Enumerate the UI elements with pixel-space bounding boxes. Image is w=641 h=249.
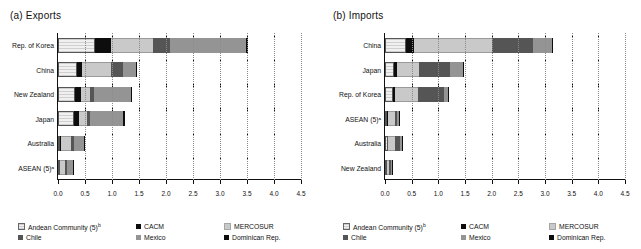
x-axis-tick-label: 4.0	[269, 190, 278, 197]
bar-segment-dominican	[448, 87, 449, 102]
gridline	[112, 33, 113, 180]
legend-item: MERCOSUR	[549, 221, 635, 232]
legend-swatch-cacm	[461, 224, 466, 229]
bar-segment-mexico	[170, 38, 245, 53]
legend-item: CACM	[461, 221, 549, 232]
category-label: New Zealand	[14, 91, 54, 98]
legend-swatch-chile	[343, 235, 348, 240]
x-axis-tick	[112, 180, 113, 184]
gridline	[465, 33, 466, 180]
x-axis-tick	[85, 180, 86, 184]
bar-segment-dominican	[463, 62, 464, 77]
bar-segment-mexico	[74, 136, 84, 151]
legend-item: Chile	[18, 232, 136, 243]
gridline	[85, 33, 86, 180]
bar-segment-chile	[492, 38, 533, 53]
gridline	[492, 33, 493, 180]
stacked-bar	[385, 111, 443, 126]
bar-row: China	[58, 62, 301, 77]
stacked-bar	[385, 136, 450, 151]
bar-segment-andean	[58, 87, 75, 102]
legend-swatch-mexico	[136, 235, 141, 240]
bar-row: ASEAN (5)ᵃ	[385, 111, 625, 126]
bar-rows-imports: ChinaJapanRep. of KoreaASEAN (5)ᵃAustral…	[385, 33, 625, 180]
bar-segment-cacm	[95, 38, 110, 53]
bar-row: Australia	[58, 136, 301, 151]
x-axis-tick	[274, 180, 275, 184]
bar-segment-mercosur	[395, 87, 418, 102]
stacked-bar	[58, 87, 192, 102]
legend-item: CACM	[136, 221, 224, 232]
x-axis-tick-label: 0.0	[380, 190, 389, 197]
category-label: Japan	[362, 66, 381, 73]
category-label: Australia	[355, 140, 381, 147]
bar-rows-exports: Rep. of KoreaChinaNew ZealandJapanAustra…	[58, 33, 301, 180]
category-label: ASEAN (5)ᵃ	[345, 115, 381, 122]
legend-label: Dominican Rep.	[557, 234, 605, 241]
x-axis-tick-label: 4.5	[296, 190, 305, 197]
legend-label-superscript: b	[423, 222, 426, 228]
bar-segment-dominican	[123, 111, 124, 126]
category-label: China	[363, 42, 381, 49]
bar-segment-chile	[419, 62, 450, 77]
x-axis-tick	[301, 180, 302, 184]
stacked-bar	[385, 87, 509, 102]
legend-label: MERCOSUR	[234, 223, 274, 230]
bar-row: New Zealand	[58, 87, 301, 102]
bar-segment-dominican	[136, 62, 138, 77]
legend-item: Andean Community (5)b	[18, 221, 136, 232]
x-axis-tick-label: 1.5	[460, 190, 469, 197]
bar-row: Rep. of Korea	[58, 38, 301, 53]
x-axis-tick-label: 3.0	[215, 190, 224, 197]
legend-label: Dominican Rep.	[232, 234, 280, 241]
x-axis-tick	[139, 180, 140, 184]
legend-label: Mexico	[469, 234, 491, 241]
legend-swatch-andean	[18, 223, 25, 230]
bar-segment-mercosur	[61, 136, 72, 151]
x-axis-tick	[438, 180, 439, 184]
x-axis-tick-label: 1.0	[107, 190, 116, 197]
x-axis-tick	[166, 180, 167, 184]
x-axis-tick-label: 0.5	[407, 190, 416, 197]
bar-row: New Zealand	[385, 160, 625, 175]
chart-panel-imports: (b) Imports ChinaJapanRep. of KoreaASEAN…	[321, 0, 641, 249]
legend-item: Mexico	[461, 232, 549, 243]
legend-swatch-chile	[18, 235, 23, 240]
gridline	[274, 33, 275, 180]
plot-area-imports: ChinaJapanRep. of KoreaASEAN (5)ᵃAustral…	[384, 33, 625, 180]
legend-swatch-cacm	[136, 224, 141, 229]
bar-segment-mexico	[450, 62, 463, 77]
x-axis-tick-label: 4.5	[620, 190, 629, 197]
legend-item: Dominican Rep.	[549, 232, 635, 243]
legend-label: Mexico	[144, 234, 166, 241]
gridline	[598, 33, 599, 180]
legend-item: MERCOSUR	[224, 221, 310, 232]
x-axis-tick	[572, 180, 573, 184]
bar-segment-dominican	[131, 87, 133, 102]
x-axis-tick	[193, 180, 194, 184]
chart-panel-exports: (a) Exports Rep. of KoreaChinaNew Zealan…	[0, 0, 320, 249]
bar-segment-mercosur	[397, 62, 419, 77]
bar-segment-andean	[385, 38, 406, 53]
bar-segment-mercosur	[414, 38, 492, 53]
legend-exports: Andean Community (5)bCACMMERCOSURChileMe…	[18, 221, 310, 243]
x-axis-tick-label: 3.0	[540, 190, 549, 197]
bar-segment-mexico	[533, 38, 552, 53]
category-label: Rep. of Korea	[12, 42, 54, 49]
x-axis-tick-label: 1.5	[134, 190, 143, 197]
x-axis-tick	[518, 180, 519, 184]
bar-segment-mexico	[90, 111, 123, 126]
gridline	[572, 33, 573, 180]
bar-segment-mercosur	[82, 62, 111, 77]
bar-segment-andean	[58, 111, 74, 126]
legend-label: CACM	[469, 223, 489, 230]
panel-title-exports: (a) Exports	[10, 10, 61, 21]
x-axis-tick-label: 2.0	[161, 190, 170, 197]
legend-label: Andean Community (5)b	[28, 222, 101, 231]
x-axis-tick-label: 2.0	[487, 190, 496, 197]
stacked-bar	[385, 62, 523, 77]
legend-swatch-mexico	[461, 235, 466, 240]
category-label: New Zealand	[341, 164, 381, 171]
stacked-bar	[58, 136, 138, 151]
x-axis-tick	[247, 180, 248, 184]
